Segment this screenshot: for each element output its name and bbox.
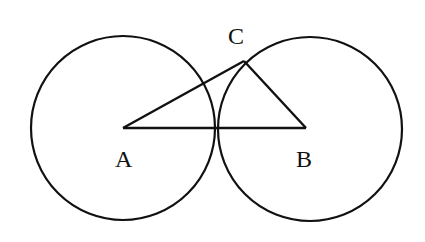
label-a: A — [115, 146, 133, 172]
segment-bc — [244, 61, 306, 128]
geometry-diagram: A B C — [0, 0, 425, 242]
label-c: C — [228, 23, 244, 49]
label-b: B — [296, 146, 312, 172]
